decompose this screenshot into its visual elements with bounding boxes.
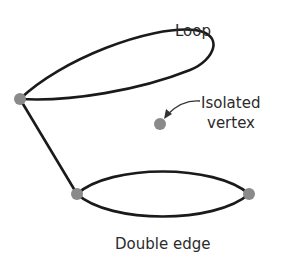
double-edge-label: Double edge (115, 235, 210, 253)
arrow-head-icon (164, 109, 172, 119)
isolated-vertex-label-line1: Isolated (201, 94, 260, 112)
double-edge-lower (77, 194, 249, 217)
isolated-vertex-label-line2: vertex (207, 114, 255, 132)
graph-diagram: Loop Isolated vertex Double edge (0, 0, 282, 259)
isolated-vertex (154, 118, 166, 130)
edge-a-b (20, 99, 77, 194)
arrow-to-isolated-vertex (168, 101, 200, 114)
loop-label: Loop (175, 22, 211, 40)
vertex-c (243, 188, 255, 200)
loop-edge (20, 30, 214, 100)
vertex-a (14, 93, 26, 105)
double-edge-upper (77, 172, 249, 195)
vertex-b (71, 188, 83, 200)
